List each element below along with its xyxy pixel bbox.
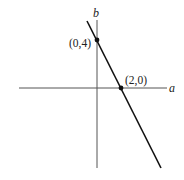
point-2-0 — [119, 86, 124, 91]
diagram-canvas: b a (0,4) (2,0) — [0, 0, 184, 180]
a-axis-label: a — [169, 81, 175, 95]
point-label-2-0: (2,0) — [125, 74, 147, 87]
point-label-0-4: (0,4) — [69, 37, 91, 50]
graph-line — [87, 21, 161, 168]
point-0-4 — [95, 38, 100, 43]
b-axis-label: b — [93, 6, 99, 20]
